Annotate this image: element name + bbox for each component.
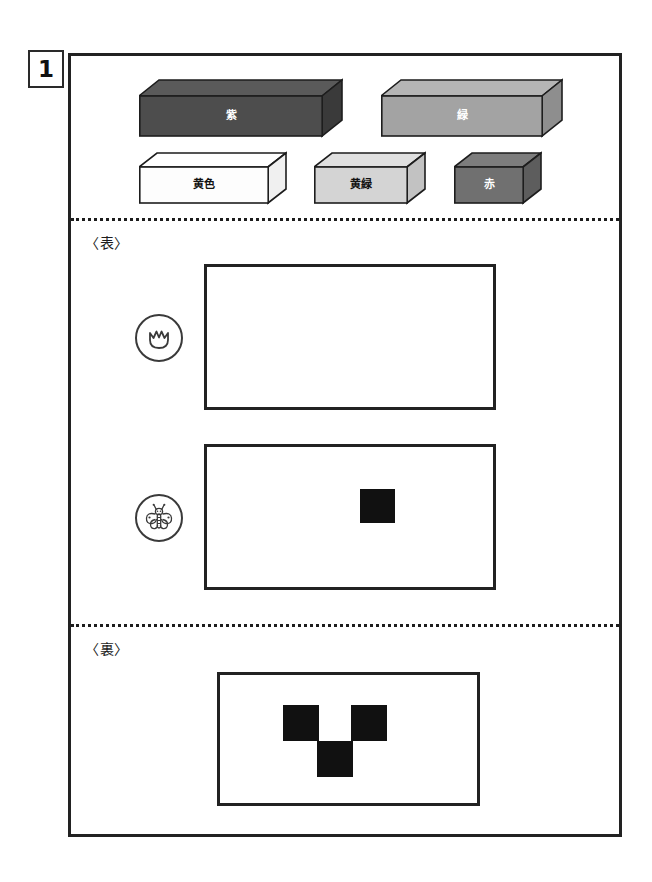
divider-back (71, 624, 619, 627)
block-red-shape (454, 151, 542, 205)
block-purple-shape (139, 78, 343, 140)
blocks-section: 紫 緑 黄色 黄緑 (71, 56, 619, 218)
divider-front (71, 218, 619, 221)
block-yellow[interactable]: 黄色 (139, 151, 287, 205)
card-row-tulip (71, 264, 619, 434)
block-red[interactable]: 赤 (454, 151, 542, 205)
filled-cell (360, 489, 395, 523)
back-section-label: 〈裏〉 (85, 638, 129, 658)
card-tulip[interactable] (204, 264, 496, 410)
worksheet-frame: 紫 緑 黄色 黄緑 (68, 53, 622, 837)
block-yellow-green[interactable]: 黄緑 (314, 151, 426, 205)
block-purple[interactable]: 紫 (139, 78, 343, 140)
block-yellow-shape (139, 151, 287, 205)
filled-cell (283, 705, 319, 741)
problem-number-badge: 1 (28, 50, 64, 88)
filled-cell (317, 741, 353, 777)
back-section: 〈裏〉 (71, 624, 619, 837)
tulip-glyph (144, 323, 174, 353)
card-butterfly[interactable] (204, 444, 496, 590)
card-row-butterfly (71, 444, 619, 614)
tulip-icon (135, 314, 183, 362)
block-green-shape (381, 78, 563, 140)
block-green[interactable]: 緑 (381, 78, 563, 140)
butterfly-glyph (143, 502, 175, 534)
butterfly-icon (135, 494, 183, 542)
block-yellow-green-shape (314, 151, 426, 205)
filled-cell (351, 705, 387, 741)
front-section: 〈表〉 (71, 218, 619, 624)
front-section-label: 〈表〉 (85, 232, 129, 252)
card-back[interactable] (217, 672, 480, 806)
